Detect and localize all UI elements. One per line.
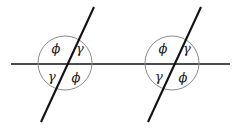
geometry-figure: ϕ γ γ ϕ ϕ γ γ ϕ xyxy=(0,0,240,128)
left-lower-left-angle-label: γ xyxy=(48,69,56,84)
left-lower-right-angle-label: ϕ xyxy=(72,70,81,85)
right-upper-left-angle-label: ϕ xyxy=(159,41,168,56)
left-upper-left-angle-label: ϕ xyxy=(52,41,61,56)
figure-svg: ϕ γ γ ϕ ϕ γ γ ϕ xyxy=(0,0,240,128)
right-upper-right-angle-label: γ xyxy=(183,41,191,56)
right-lower-left-angle-label: γ xyxy=(155,69,163,84)
left-upper-right-angle-label: γ xyxy=(76,41,84,56)
right-lower-right-angle-label: ϕ xyxy=(179,70,188,85)
